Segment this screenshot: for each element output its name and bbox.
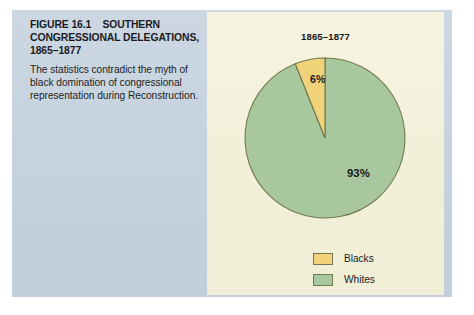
pie-value-blacks: 6%: [310, 73, 325, 85]
legend-item-whites[interactable]: Whites: [313, 269, 375, 290]
legend-swatch-whites: [313, 274, 333, 286]
legend-label-blacks: Blacks: [344, 253, 374, 264]
pie-value-whites: 93%: [347, 167, 370, 179]
figure-number: FIGURE 16.1: [30, 19, 91, 30]
figure-caption-block: FIGURE 16.1 SOUTHERN CONGRESSIONAL DELEG…: [30, 18, 202, 103]
figure-title: FIGURE 16.1 SOUTHERN CONGRESSIONAL DELEG…: [30, 18, 202, 58]
chart-panel: 1865–1877 6% 93% Blacks Whites: [207, 12, 444, 295]
figure-container: FIGURE 16.1 SOUTHERN CONGRESSIONAL DELEG…: [0, 0, 474, 315]
legend-item-blacks[interactable]: Blacks: [313, 248, 375, 269]
legend-label-whites: Whites: [344, 274, 375, 285]
legend-swatch-blacks: [313, 253, 333, 265]
chart-legend: Blacks Whites: [313, 248, 375, 290]
figure-description: The statistics contradict the myth of bl…: [30, 63, 202, 103]
